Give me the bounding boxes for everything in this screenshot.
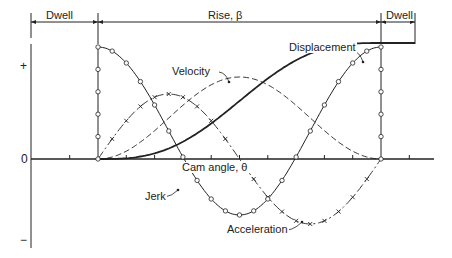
right-dwell-label: Dwell: [385, 10, 414, 21]
dimension-arrow: [98, 20, 103, 24]
plus-sign: +: [20, 60, 27, 72]
acceleration-marker-icon: [209, 119, 213, 123]
jerk-marker-icon: [138, 79, 142, 83]
acceleration-marker-icon: [181, 95, 185, 99]
acceleration-marker-icon: [138, 104, 142, 108]
dimension-arrow: [31, 20, 36, 24]
acceleration-marker-icon: [337, 210, 341, 214]
jerk-leader: [165, 190, 178, 197]
velocity-leader-arrowhead: [228, 81, 231, 84]
jerk-leader-arrowhead: [177, 189, 180, 192]
acceleration-marker-icon: [153, 95, 157, 99]
acceleration-marker-icon: [252, 177, 256, 181]
jerk-marker-icon: [266, 197, 270, 201]
cam-motion-diagram: [0, 0, 452, 258]
velocity-label: Velocity: [171, 66, 211, 77]
jerk-marker-icon: [96, 45, 100, 49]
jerk-marker-icon: [96, 112, 100, 116]
jerk-marker-icon: [96, 67, 100, 71]
jerk-marker-icon: [379, 134, 383, 138]
jerk-marker-icon: [96, 134, 100, 138]
jerk-marker-icon: [351, 61, 355, 65]
jerk-marker-icon: [379, 67, 383, 71]
jerk-marker-icon: [167, 129, 171, 133]
jerk-marker-icon: [336, 79, 340, 83]
displacement-label: Displacement: [288, 42, 357, 53]
end-marker-icon: [379, 157, 383, 161]
jerk-marker-icon: [237, 213, 241, 217]
jerk-curve: [98, 47, 381, 215]
jerk-marker-icon: [379, 90, 383, 94]
acceleration-label: Acceleration: [226, 224, 289, 235]
minus-sign: −: [20, 234, 27, 246]
origin-marker-icon: [96, 157, 100, 161]
acceleration-marker-icon: [322, 219, 326, 223]
jerk-marker-icon: [195, 178, 199, 182]
jerk-marker-icon: [280, 178, 284, 182]
jerk-label: Jerk: [144, 191, 167, 202]
dimension-arrow: [93, 20, 98, 24]
jerk-marker-icon: [252, 209, 256, 213]
jerk-marker-icon: [294, 155, 298, 159]
zero-label: 0: [21, 153, 28, 165]
jerk-marker-icon: [379, 112, 383, 116]
displacement-leader-arrowhead: [362, 61, 365, 64]
jerk-marker-icon: [308, 129, 312, 133]
dimension-arrow: [376, 20, 381, 24]
jerk-marker-icon: [365, 49, 369, 53]
acceleration-marker-icon: [351, 195, 355, 199]
rise-label: Rise, β: [207, 10, 243, 21]
acceleration-marker-icon: [294, 219, 298, 223]
jerk-marker-icon: [379, 45, 383, 49]
acceleration-marker-icon: [110, 137, 114, 141]
velocity-curve: [98, 77, 381, 159]
acceleration-leader-arrowhead: [301, 221, 304, 224]
jerk-marker-icon: [209, 197, 213, 201]
acceleration-marker-icon: [124, 119, 128, 123]
jerk-marker-icon: [322, 103, 326, 107]
cam-angle-label: Cam angle, θ: [181, 162, 248, 173]
jerk-marker-icon: [96, 90, 100, 94]
jerk-marker-icon: [181, 155, 185, 159]
jerk-marker-icon: [124, 61, 128, 65]
left-dwell-label: Dwell: [45, 10, 74, 21]
acceleration-marker-icon: [195, 104, 199, 108]
displacement-curve: [98, 43, 415, 159]
acceleration-marker-icon: [365, 177, 369, 181]
acceleration-marker-icon: [280, 210, 284, 214]
jerk-marker-icon: [110, 49, 114, 53]
jerk-marker-icon: [152, 103, 156, 107]
jerk-marker-icon: [223, 209, 227, 213]
acceleration-marker-icon: [223, 137, 227, 141]
